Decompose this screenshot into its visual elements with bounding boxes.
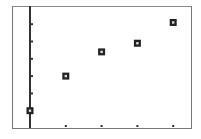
y-axis-tick bbox=[31, 58, 33, 60]
x-axis-tick bbox=[136, 125, 138, 127]
data-point-marker-center bbox=[172, 21, 174, 23]
scatter-plot bbox=[0, 0, 201, 139]
y-axis-tick bbox=[31, 75, 33, 77]
y-axis-tick bbox=[31, 41, 33, 43]
data-point-marker-center bbox=[136, 42, 138, 44]
y-axis-tick bbox=[31, 92, 33, 94]
data-point-marker-center bbox=[100, 51, 102, 53]
y-axis-tick bbox=[31, 23, 33, 25]
data-point-marker-center bbox=[65, 75, 67, 77]
x-axis-tick bbox=[65, 125, 67, 127]
data-point-marker-center bbox=[29, 110, 31, 112]
x-axis-tick bbox=[172, 125, 174, 127]
x-axis-tick bbox=[101, 125, 103, 127]
